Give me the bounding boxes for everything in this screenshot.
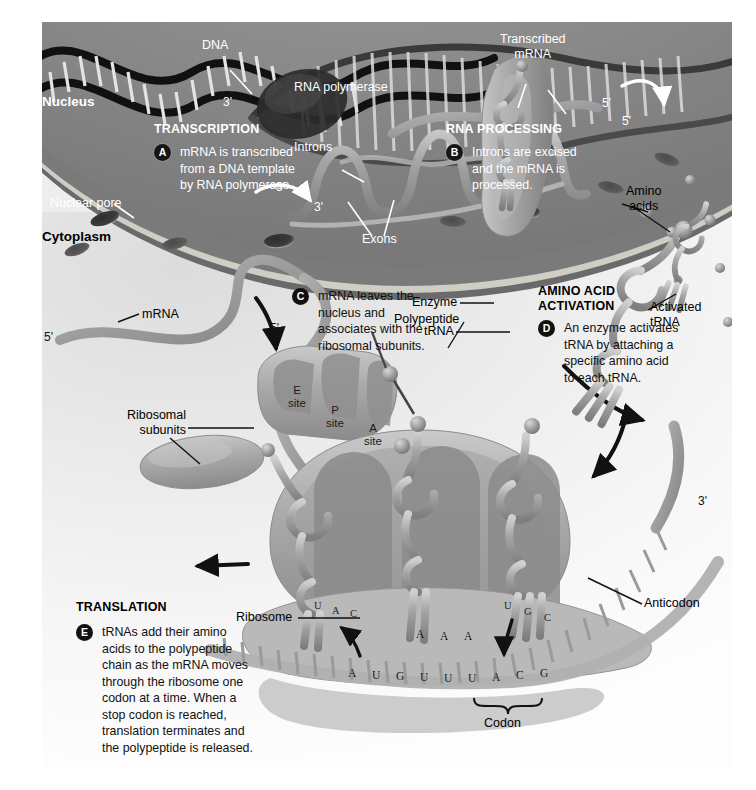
mrna-base-1: U xyxy=(372,669,380,681)
anticodon-a-base-0: U xyxy=(504,600,512,611)
e-site-label: E site xyxy=(282,384,312,409)
prime-mrna-five-ribosome: 5' xyxy=(270,321,279,335)
callout-activated-trna: Activated tRNA xyxy=(650,300,701,331)
anticodon-p-base-0: A xyxy=(416,628,424,640)
anticodon-e-base-2: C xyxy=(350,608,357,619)
compartment-label-nucleus: Nucleus xyxy=(42,94,95,110)
mrna-base-6: A xyxy=(492,671,500,683)
callout-dna: DNA xyxy=(202,38,228,53)
prime-mrna-three-right: 3' xyxy=(698,494,707,508)
callout-introns: Introns xyxy=(294,140,332,155)
heading-translation: TRANSLATION xyxy=(76,600,167,615)
step-badge-a: A xyxy=(154,144,171,161)
mrna-base-4: U xyxy=(444,672,452,684)
callout-enzyme: Enzyme xyxy=(412,295,457,310)
illustration-canvas: Nucleus Cytoplasm TRANSCRIPTION A mRNA i… xyxy=(42,22,732,768)
step-body-e: tRNAs add their amino acids to the polyp… xyxy=(102,624,302,756)
callout-ribosomal-subunits: Ribosomal subunits xyxy=(90,408,186,439)
step-badge-e: E xyxy=(76,624,93,641)
step-badge-d: D xyxy=(538,320,555,337)
prime-dna-three: 3' xyxy=(223,95,232,109)
prime-transcript-five-1: 5' xyxy=(602,96,611,110)
callout-mrna: mRNA xyxy=(142,307,179,322)
prime-mrna-five-left: 5' xyxy=(44,330,53,344)
prime-intron-three-1: 3' xyxy=(276,180,285,194)
step-body-d: An enzyme activates tRNA by attaching a … xyxy=(564,320,729,386)
step-body-a: mRNA is transcribed from a DNA template … xyxy=(180,144,360,194)
mrna-base-5: U xyxy=(468,672,476,684)
anticodon-e-base-1: A xyxy=(332,605,340,616)
p-site-label: P site xyxy=(320,404,350,429)
protein-synthesis-figure: Nucleus Cytoplasm TRANSCRIPTION A mRNA i… xyxy=(0,0,756,790)
callout-codon: Codon xyxy=(484,716,521,731)
mrna-base-3: U xyxy=(420,671,428,683)
callout-transcribed-mrna: Transcribed mRNA xyxy=(500,32,566,63)
e-site-line1: E xyxy=(293,384,301,396)
anticodon-a-base-2: C xyxy=(544,612,551,623)
callout-polypeptide: Polypeptide xyxy=(394,312,459,327)
a-site-line2: site xyxy=(364,435,382,447)
heading-transcription: TRANSCRIPTION xyxy=(154,122,259,137)
anticodon-p-base-1: A xyxy=(440,630,448,642)
e-site-line2: site xyxy=(288,397,306,409)
mrna-base-8: G xyxy=(540,667,548,679)
anticodon-a-base-1: G xyxy=(524,606,532,617)
a-site-label: A site xyxy=(358,422,388,447)
heading-rna-processing: RNA PROCESSING xyxy=(446,122,562,137)
mrna-base-2: G xyxy=(396,670,404,682)
anticodon-p-base-2: A xyxy=(464,630,472,642)
callout-nuclear-pore: Nuclear pore xyxy=(50,196,122,211)
p-site-line2: site xyxy=(326,417,344,429)
step-body-b: Introns are excised and the mRNA is proc… xyxy=(472,144,642,194)
step-badge-b: B xyxy=(446,144,463,161)
callout-rna-polymerase: RNA polymerase xyxy=(294,80,388,95)
prime-transcript-five-2: 5' xyxy=(622,114,631,128)
step-badge-c: C xyxy=(292,288,309,305)
callout-anticodon: Anticodon xyxy=(644,596,700,611)
callout-exons: Exons xyxy=(362,232,397,247)
a-site-line1: A xyxy=(369,422,377,434)
callout-amino-acids: Amino acids xyxy=(626,184,661,215)
prime-intron-three-2: 3' xyxy=(314,200,323,214)
callout-ribosome: Ribosome xyxy=(236,610,292,625)
compartment-label-cytoplasm: Cytoplasm xyxy=(42,229,111,245)
heading-amino-acid-activation: AMINO ACID ACTIVATION xyxy=(538,284,615,314)
mrna-base-0: A xyxy=(348,667,356,679)
anticodon-e-base-0: U xyxy=(314,600,322,611)
p-site-line1: P xyxy=(331,404,339,416)
mrna-base-7: C xyxy=(516,669,524,681)
